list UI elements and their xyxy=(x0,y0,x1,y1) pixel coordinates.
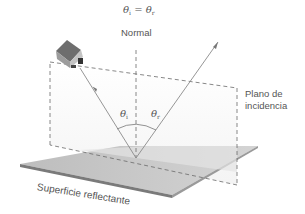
plane-label-line2: incidencia xyxy=(245,100,287,111)
angle-incident-label: θi xyxy=(120,108,128,122)
equation-label: θi = θr xyxy=(123,4,155,18)
subscript-r: r xyxy=(152,9,155,16)
normal-label: Normal xyxy=(121,27,152,38)
angle-reflected-label: θr xyxy=(151,108,160,122)
reflection-diagram: θi = θr Normal Plano de incidencia θi θr… xyxy=(0,0,305,214)
plane-label-line1: Plano de xyxy=(245,88,283,99)
subscript-r: r xyxy=(157,113,160,120)
subscript-i: i xyxy=(126,113,128,120)
equals-sign: = xyxy=(131,4,146,15)
